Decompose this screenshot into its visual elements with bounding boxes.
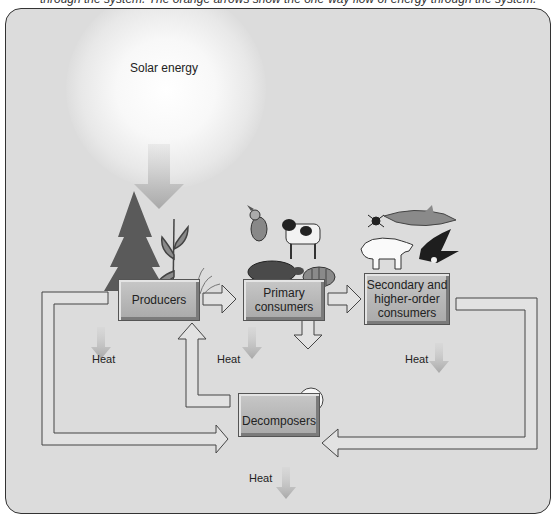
heat-label-decomposers: Heat bbox=[249, 472, 272, 484]
producers-label: Producers bbox=[132, 293, 187, 307]
heat-label-producers: Heat bbox=[92, 353, 115, 365]
heat-arrow-secondary bbox=[429, 343, 449, 373]
primary-consumers-label-1: Primary bbox=[263, 286, 304, 300]
arrow-primary-to-decomposers bbox=[294, 317, 322, 349]
figure-caption: through the system. The orange arrows sh… bbox=[40, 0, 536, 6]
cow-icon bbox=[282, 219, 320, 259]
polar-bear-icon bbox=[361, 238, 413, 269]
spider-icon bbox=[368, 215, 384, 227]
primary-consumers-label-2: consumers bbox=[255, 300, 314, 314]
secondary-consumers-label-1: Secondary and bbox=[367, 278, 448, 292]
decomposers-label: Decomposers bbox=[242, 414, 316, 428]
shark-icon bbox=[384, 205, 456, 226]
decomposers-box: Decomposers bbox=[238, 393, 320, 437]
secondary-consumers-box: Secondary and higher-order consumers bbox=[364, 273, 450, 325]
secondary-consumers-label-2: higher-order bbox=[374, 292, 439, 306]
diagram-frame: Solar energy bbox=[5, 8, 551, 514]
diagram-graphics bbox=[6, 9, 551, 514]
heat-label-secondary: Heat bbox=[405, 353, 428, 365]
arrow-decomposers-to-producers bbox=[178, 323, 230, 407]
solar-energy-arrow bbox=[134, 144, 184, 209]
heat-label-primary: Heat bbox=[217, 353, 240, 365]
arrow-primary-to-secondary bbox=[328, 285, 361, 313]
primary-consumers-box: Primary consumers bbox=[243, 279, 325, 321]
heat-arrow-primary bbox=[242, 327, 262, 359]
bird-icon bbox=[247, 205, 267, 241]
producers-box: Producers bbox=[118, 279, 200, 321]
eagle-icon bbox=[419, 229, 459, 263]
heat-arrow-decomposers bbox=[276, 467, 296, 499]
secondary-consumers-label-3: consumers bbox=[378, 306, 437, 320]
